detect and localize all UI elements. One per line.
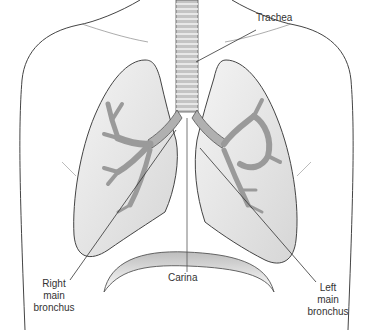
left-bronchus-label-line-3: bronchus <box>306 306 350 318</box>
rib-mark-right <box>297 162 311 176</box>
left-clavicle <box>225 24 291 42</box>
right-clavicle <box>82 24 148 42</box>
lung-diagram: Trachea Carina Right main bronchus Left … <box>0 0 373 330</box>
right-lung <box>74 60 178 257</box>
right-bronchus-label-line-2: main <box>32 290 76 302</box>
left-bronchus-label-line-2: main <box>306 294 350 306</box>
right-bronchus-label-line-1: Right <box>32 278 76 290</box>
carina-label: Carina <box>168 272 197 284</box>
right-bronchus-label-line-3: bronchus <box>32 302 76 314</box>
trachea-leader-line <box>196 30 256 62</box>
right-main-bronchus-label: Right main bronchus <box>32 278 76 314</box>
rib-mark-left <box>62 162 76 176</box>
trachea-label: Trachea <box>256 12 292 24</box>
left-bronchus-label-line-1: Left <box>306 282 350 294</box>
trachea <box>176 0 198 112</box>
left-main-bronchus-label: Left main bronchus <box>306 282 350 318</box>
